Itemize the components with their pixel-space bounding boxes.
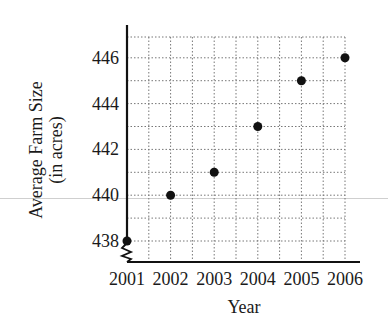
y-axis-label-units: (in acres) [46,116,67,183]
y-tick-label: 446 [92,48,119,68]
axes [122,25,360,262]
y-tick-label: 440 [92,185,119,205]
grid [127,37,345,262]
x-tick-label: 2006 [327,269,363,289]
x-tick-label: 2004 [240,269,276,289]
axis-break-icon [122,243,131,262]
y-tick-label: 442 [92,139,119,159]
y-tick-labels: 438440442444446 [92,48,119,251]
y-tick-label: 438 [92,231,119,251]
x-tick-label: 2001 [109,269,145,289]
x-axis-label: Year [227,297,260,317]
data-point [210,168,219,177]
data-point [297,76,306,85]
data-point [341,53,350,62]
y-tick-label: 444 [92,94,119,114]
data-point [166,191,175,200]
x-tick-label: 2002 [153,269,189,289]
scatter-chart: 438440442444446 200120022003200420052006… [0,0,388,329]
data-point [123,237,132,246]
x-tick-labels: 200120022003200420052006 [109,269,363,289]
x-tick-label: 2003 [196,269,232,289]
data-point [253,122,262,131]
x-tick-label: 2005 [283,269,319,289]
y-axis-label: Average Farm Size [26,81,46,219]
